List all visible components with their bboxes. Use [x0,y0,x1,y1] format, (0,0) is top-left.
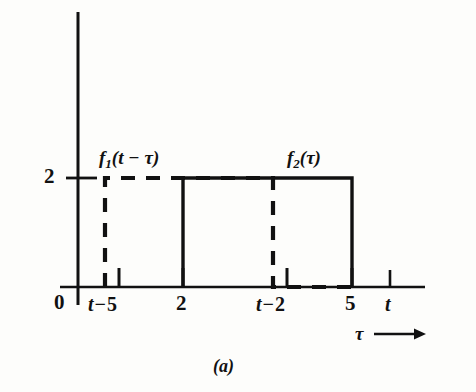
x-axis-tick-label-t: t [385,294,391,314]
t-minus-5-var: t [88,293,94,315]
x-axis-origin-label: 0 [54,292,65,313]
convolution-figure: f1(t − τ) f2(τ) 2 0 t−5 2 t−2 5 t τ (a) [0,0,476,392]
x-axis-tick-label-t-minus-2: t−2 [256,294,285,314]
x-axis-label-tau: τ [355,324,363,343]
curve-label-f1: f1(t − τ) [99,148,159,170]
x-axis-tick-label-t-minus-5: t−5 [88,294,117,314]
t-minus-5-op: − [94,293,107,315]
t-minus-2-var: t [256,293,262,315]
x-axis-tick-label-2: 2 [176,293,187,314]
t-minus-2-op: − [262,293,275,315]
figure-caption: (a) [213,357,234,375]
f1-argument: (t − τ) [112,147,159,168]
y-axis-tick-label-2: 2 [44,166,55,187]
t-var: t [385,293,391,315]
tau-axis-arrow-icon [374,329,426,340]
curve-f1-dashed [105,178,352,287]
x-axis-tick-label-5: 5 [345,293,356,314]
f2-argument: (τ) [300,147,321,168]
t-minus-5-num: 5 [107,293,117,315]
curve-label-f2: f2(τ) [287,148,321,170]
t-minus-2-num: 2 [275,293,285,315]
plot-canvas [0,0,476,392]
curve-f2-solid [183,178,352,287]
